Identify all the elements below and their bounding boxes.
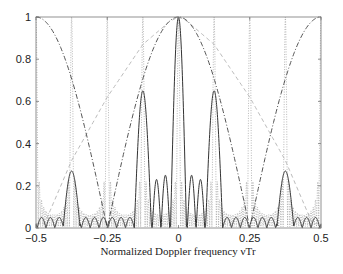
y-tick-label: 1	[25, 11, 31, 23]
axes-box	[36, 17, 321, 228]
plot-lines	[36, 17, 321, 228]
dotted-series	[36, 17, 321, 227]
light-dashed-series	[36, 17, 321, 224]
chart: −0.5−0.2500.250.500.20.40.60.81 Normaliz…	[0, 0, 343, 274]
x-tick-label: 0.25	[239, 232, 260, 244]
y-tick-label: 0.8	[16, 53, 31, 65]
axis-ticks: −0.5−0.2500.250.500.20.40.60.81	[16, 11, 329, 244]
y-tick-label: 0	[25, 222, 31, 234]
x-tick-label: 0	[175, 232, 181, 244]
y-tick-label: 0.2	[16, 180, 31, 192]
x-tick-label: −0.25	[93, 232, 121, 244]
y-tick-label: 0.6	[16, 95, 31, 107]
y-tick-label: 0.4	[16, 138, 31, 150]
x-tick-label: 0.5	[313, 232, 328, 244]
x-axis-label: Normalized Doppler frequency νTr	[100, 245, 255, 257]
solid-series	[36, 17, 321, 228]
dashdot-series	[36, 17, 321, 228]
